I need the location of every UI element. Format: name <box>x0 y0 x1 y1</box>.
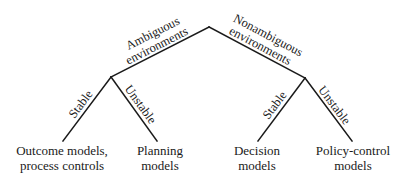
leaf-decision-models: Decision models <box>234 143 281 173</box>
leaf-outcome-models: Outcome models, process controls <box>16 143 108 173</box>
edge-label-left-unstable: Unstable <box>122 82 160 127</box>
leaf-label-line: models <box>141 158 179 173</box>
leaf-label-line: process controls <box>20 158 104 173</box>
leaf-label-line: models <box>334 158 372 173</box>
leaf-label-line: Planning <box>137 143 184 158</box>
edge-label-text: Unstable <box>315 83 353 127</box>
leaf-label-line: Outcome models, <box>16 143 108 158</box>
leaf-label-line: Policy-control <box>316 143 391 158</box>
decision-tree-diagram: Ambiguous environments Nonambiguous envi… <box>0 0 408 180</box>
leaf-policy-control-models: Policy-control models <box>316 143 391 173</box>
edge-label-right-unstable: Unstable <box>315 83 353 127</box>
leaf-label-line: models <box>238 158 276 173</box>
leaf-planning-models: Planning models <box>137 143 184 173</box>
leaf-label-line: Decision <box>234 143 281 158</box>
edge-label-text: Unstable <box>122 82 160 127</box>
branch-label-nonambiguous: Nonambiguous environments <box>225 11 305 71</box>
branch-label-ambiguous: Ambiguous environments <box>117 12 190 67</box>
